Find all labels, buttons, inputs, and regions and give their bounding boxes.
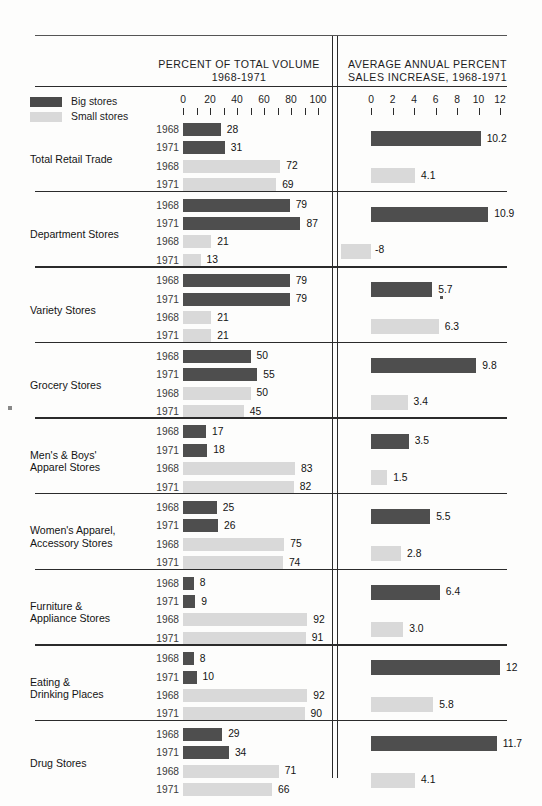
right-panel-bar-row: 3.5: [0, 434, 542, 448]
bar-big: [371, 282, 432, 297]
group-separator-rule: [35, 417, 507, 418]
right-panel-bar-row: 10.9: [0, 207, 542, 221]
group-separator-rule: [35, 569, 507, 570]
bar-value-label: 11.7: [503, 738, 522, 749]
bar-small: [371, 546, 401, 561]
right-panel-bar-row: 1.5: [0, 470, 542, 484]
right-panel-bar-row: 12: [0, 660, 542, 674]
group-separator-rule: [35, 493, 507, 494]
bar-small: [371, 697, 433, 712]
bar-small: [371, 319, 439, 334]
bar-value-label: 6.4: [446, 586, 460, 597]
bar-big: [371, 660, 500, 675]
bar-small: [371, 622, 403, 637]
right-panel-bar-row: 3.0: [0, 622, 542, 636]
bar-value-label: 4.1: [421, 170, 435, 181]
bar-value-label: 2.8: [407, 548, 421, 559]
right-panel-bar-row: -8: [0, 244, 542, 258]
bar-big: [371, 509, 430, 524]
group-separator-rule: [35, 720, 507, 721]
right-panel-bar-row: 5.8: [0, 697, 542, 711]
bar-value-label: 3.4: [414, 396, 428, 407]
bar-small-negative: [341, 244, 371, 259]
right-panel-bar-row: 5.7: [0, 282, 542, 296]
group-separator-rule: [35, 191, 507, 192]
bar-value-label: 6.3: [445, 321, 459, 332]
bar-value-label: 3.0: [409, 623, 423, 634]
chart-page: PERCENT OF TOTAL VOLUME 1968-1971 AVERAG…: [0, 0, 542, 806]
bar-small: [371, 168, 415, 183]
bar-big: [371, 131, 481, 146]
bar-big: [371, 358, 476, 373]
bar-value-label: 10.9: [494, 208, 514, 219]
bar-big: [371, 207, 488, 222]
group-separator-rule: [35, 644, 507, 645]
bar-value-label: 5.5: [436, 511, 450, 522]
right-panel-bar-row: 4.1: [0, 773, 542, 787]
right-panel-bar-row: 4.1: [0, 168, 542, 182]
bar-value-label: 4.1: [421, 774, 435, 785]
plot-area: Total Retail Trade1968281971311968721971…: [0, 0, 542, 806]
bar-big: [371, 434, 409, 449]
bar-small: [371, 470, 387, 485]
bar-value-label: 9.8: [482, 360, 496, 371]
right-panel-bar-row: 5.5: [0, 509, 542, 523]
bar-small: [371, 773, 415, 788]
bar-value-label: 5.8: [439, 699, 453, 710]
bar-value-label: 3.5: [415, 435, 429, 446]
bar-value-label: -8: [375, 244, 384, 255]
right-panel-bar-row: 6.3: [0, 319, 542, 333]
right-panel-bar-row: 11.7: [0, 736, 542, 750]
right-panel-bar-row: 2.8: [0, 546, 542, 560]
bar-small: [371, 395, 408, 410]
stray-mark-margin: [8, 406, 12, 410]
bar-value-label: 12: [506, 662, 517, 673]
right-panel-bar-row: 6.4: [0, 585, 542, 599]
bar-value-label: 1.5: [393, 472, 407, 483]
right-panel-bar-row: 9.8: [0, 358, 542, 372]
stray-mark: [440, 296, 443, 299]
right-panel-bar-row: 3.4: [0, 395, 542, 409]
bar-big: [371, 585, 440, 600]
bar-value-label: 5.7: [438, 284, 452, 295]
bar-value-label: 10.2: [487, 133, 507, 144]
right-panel-bar-row: 10.2: [0, 131, 542, 145]
group-separator-rule: [35, 266, 507, 267]
group-separator-rule: [35, 342, 507, 343]
bar-big: [371, 736, 497, 751]
